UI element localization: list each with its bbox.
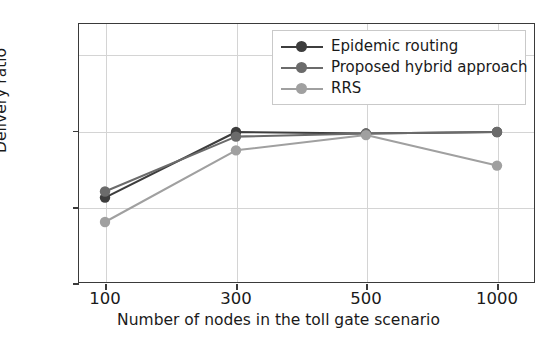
legend-entry-rrs[interactable]: RRS [281, 78, 517, 99]
x-axis-label: Number of nodes in the toll gate scenari… [0, 311, 557, 329]
series-proposed-hybrid-approach [100, 127, 502, 197]
series-rrs [100, 130, 502, 227]
series-marker [231, 145, 241, 155]
legend-label: Epidemic routing [331, 39, 458, 54]
y-axis-label: Delivery ratio [0, 48, 10, 153]
legend-label: RRS [331, 81, 361, 96]
chart-figure: Delivery ratio Number of nodes in the to… [0, 0, 557, 338]
x-axis-tick-label: 1000 [476, 289, 518, 308]
legend-marker-icon [281, 61, 323, 75]
legend-marker-icon [281, 82, 323, 96]
series-marker [100, 186, 110, 196]
x-axis-tick-label: 100 [89, 289, 121, 308]
legend-entry-epidemic-routing[interactable]: Epidemic routing [281, 36, 517, 57]
legend-marker-icon [281, 40, 323, 54]
series-marker [231, 131, 241, 141]
series-marker [361, 130, 371, 140]
series-marker [100, 217, 110, 227]
x-axis-tick-label: 500 [350, 289, 382, 308]
series-marker [492, 160, 502, 170]
y-axis-tick-mark [73, 283, 79, 285]
chart-legend: Epidemic routingProposed hybrid approach… [272, 30, 526, 105]
legend-entry-proposed-hybrid-approach[interactable]: Proposed hybrid approach [281, 57, 517, 78]
legend-label: Proposed hybrid approach [331, 60, 528, 75]
series-line [105, 135, 497, 222]
series-line [105, 132, 497, 191]
x-axis-tick-label: 300 [220, 289, 252, 308]
series-marker [492, 127, 502, 137]
